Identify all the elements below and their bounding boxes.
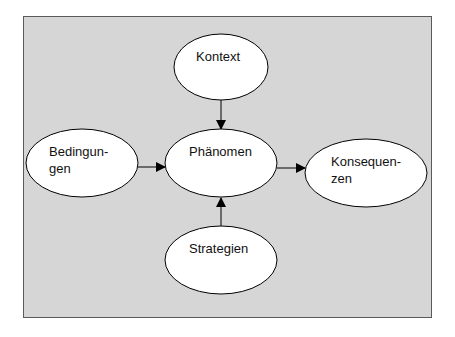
node-label-phaenomen: Phänomen [189,143,252,160]
node-label-bedingungen: Bedingun- gen [49,143,108,177]
node-label-strategien: Strategien [189,240,248,257]
node-phaenomen [165,129,277,197]
node-kontext [174,34,268,100]
node-label-konsequenzen: Konsequen- zen [331,153,401,187]
node-strategien [165,226,277,294]
node-label-kontext: Kontext [196,48,240,65]
